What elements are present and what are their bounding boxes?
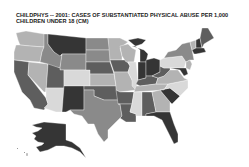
state-ND [86, 38, 110, 50]
state-KS [90, 74, 116, 86]
state-AZ [44, 88, 64, 112]
state-NM [62, 86, 84, 112]
state-HI [26, 153, 28, 156]
state-OR [14, 45, 44, 62]
us-choropleth-map [0, 0, 249, 167]
state-AK [32, 122, 86, 158]
map-artifact-dot [17, 148, 18, 149]
state-SD [86, 50, 110, 62]
state-ME [200, 28, 214, 48]
state-MA [192, 48, 206, 54]
state-WA [16, 31, 46, 47]
state-AR [116, 90, 134, 104]
state-IN [138, 62, 146, 80]
hawaii-island-dot [24, 152, 25, 153]
state-NE [86, 62, 114, 74]
state-FL [146, 112, 178, 144]
state-PA [160, 56, 186, 68]
state-WY [60, 54, 86, 70]
state-NJ [186, 60, 192, 70]
state-CO [64, 70, 90, 86]
